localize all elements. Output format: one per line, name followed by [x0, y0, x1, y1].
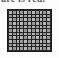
grid-cell [20, 29, 23, 32]
grid-cell [47, 47, 50, 50]
grid-cell [28, 33, 31, 36]
grid-cell [13, 36, 16, 39]
grid-cell [9, 36, 12, 39]
grid-cell [9, 11, 12, 14]
grid-cell [36, 47, 39, 50]
grid-cell [17, 15, 20, 18]
grid-cell [24, 44, 27, 47]
grid-cell [36, 18, 39, 21]
grid-cell [17, 18, 20, 21]
grid-cell [20, 33, 23, 36]
grid-cell [40, 29, 43, 32]
grid-cell [13, 33, 16, 36]
grid-cell [40, 11, 43, 14]
grid-border [7, 9, 52, 52]
grid-cell [24, 15, 27, 18]
grid-cell [40, 47, 43, 50]
grid-cell [32, 36, 35, 39]
grid-cell [47, 11, 50, 14]
grid-cell [13, 47, 16, 50]
grid-cell [43, 40, 46, 43]
grid-cell [24, 26, 27, 29]
grid-cell [36, 15, 39, 18]
grid-cell [36, 33, 39, 36]
grid-cell [13, 15, 16, 18]
grid-cell [36, 26, 39, 29]
grid-cell [24, 47, 27, 50]
grid-cell [40, 40, 43, 43]
grid-cell [28, 11, 31, 14]
grid-cell [9, 47, 12, 50]
grid-cell [36, 40, 39, 43]
grid-cell [9, 15, 12, 18]
caption-strip: are is red. [0, 0, 59, 6]
grid-cell [17, 36, 20, 39]
grid-cell [36, 29, 39, 32]
grid-cell [24, 29, 27, 32]
grid-cell [9, 18, 12, 21]
grid-cell [40, 26, 43, 29]
grid-cell [47, 26, 50, 29]
grid-cell [32, 47, 35, 50]
grid-cell [47, 36, 50, 39]
grid-cell [43, 47, 46, 50]
grid-cell [43, 29, 46, 32]
grid-cell [47, 33, 50, 36]
grid-cell [43, 33, 46, 36]
grid-cell [28, 18, 31, 21]
grid-cell [20, 11, 23, 14]
grid-cell [32, 11, 35, 14]
grid-cell [28, 22, 31, 25]
grid-figure [7, 9, 52, 52]
grid-cell [32, 33, 35, 36]
grid-cell [43, 15, 46, 18]
grid-cell [47, 44, 50, 47]
grid-cell [24, 22, 27, 25]
grid-cell [9, 33, 12, 36]
grid-cell [43, 11, 46, 14]
grid-cell [47, 18, 50, 21]
grid-cell [36, 36, 39, 39]
grid-cell [24, 11, 27, 14]
caption-text: are is red. [1, 0, 45, 4]
grid-cell [9, 26, 12, 29]
grid-cell [32, 22, 35, 25]
grid-cell [40, 18, 43, 21]
grid-cell [32, 18, 35, 21]
grid-cell [17, 47, 20, 50]
grid-cell [40, 36, 43, 39]
grid-cell [47, 29, 50, 32]
grid-cell [40, 15, 43, 18]
grid-cell [13, 40, 16, 43]
grid-cell [28, 47, 31, 50]
grid-cell [13, 11, 16, 14]
grid-cell [20, 18, 23, 21]
grid-cell [13, 26, 16, 29]
grid-cell [28, 26, 31, 29]
grid-cell [17, 29, 20, 32]
grid-cell [40, 22, 43, 25]
grid-cell [28, 44, 31, 47]
screenshot-root: are is red. [0, 0, 59, 58]
grid-cell [36, 11, 39, 14]
grid-cell [20, 40, 23, 43]
grid-cell [17, 26, 20, 29]
grid-cell [9, 29, 12, 32]
grid-cell [47, 22, 50, 25]
grid-cell [28, 29, 31, 32]
grid-cell [43, 18, 46, 21]
grid-cell [47, 15, 50, 18]
grid-cell [36, 44, 39, 47]
grid-cell [43, 22, 46, 25]
grid-cell [13, 22, 16, 25]
grid-cell [28, 15, 31, 18]
grid-cell [24, 18, 27, 21]
grid-cell [43, 44, 46, 47]
grid-cell [36, 22, 39, 25]
grid-cell [17, 22, 20, 25]
grid-cell [13, 44, 16, 47]
grid-cell [32, 44, 35, 47]
grid-cell [32, 15, 35, 18]
grid-cell [24, 36, 27, 39]
grid-cell [9, 40, 12, 43]
